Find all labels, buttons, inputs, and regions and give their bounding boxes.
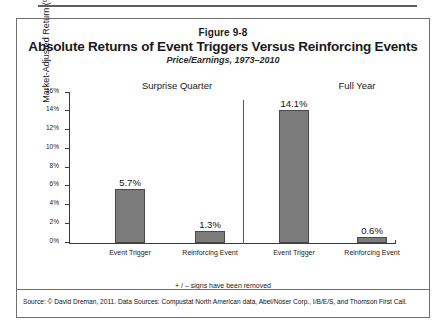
y-tick-label-10: 10% — [46, 143, 59, 150]
panel-header-surprise-quarter: Surprise Quarter — [122, 80, 232, 91]
y-tick-0: 0% — [65, 242, 69, 243]
page-top-rule — [38, 5, 417, 7]
figure-subtitle: Price/Earnings, 1973–2010 — [17, 55, 429, 65]
x-axis-label-fullyear-event-trigger: Event Trigger — [273, 249, 315, 256]
figure-container: Figure 9-8 Absolute Returns of Event Tri… — [16, 18, 430, 318]
y-tick-label-2: 2% — [50, 218, 59, 225]
bar-surprise-reinforcing-event[interactable]: 1.3% — [195, 231, 225, 243]
y-tick-14: 14% — [65, 110, 69, 111]
y-tick-2: 2% — [65, 223, 69, 224]
x-axis-endcap — [395, 240, 396, 244]
plot-area: 0% 2% 4% 6% 8% 10% 12% 14% 16% 5.7% 1.3%… — [69, 92, 396, 244]
source-divider — [17, 289, 429, 290]
figure-title: Absolute Returns of Event Triggers Versu… — [17, 39, 429, 54]
y-tick-label-12: 12% — [46, 124, 59, 131]
y-tick-12: 12% — [65, 129, 69, 130]
y-axis-title: Market-Adjusted Return (%) — [41, 0, 51, 112]
x-category-anchor-3: Event Trigger — [279, 243, 309, 244]
x-category-anchor-2: Reinforcing Event — [195, 243, 225, 244]
panel-header-full-year: Full Year — [302, 80, 412, 91]
x-axis-label-surprise-event-trigger: Event Trigger — [109, 249, 151, 256]
y-tick-16: 16% — [65, 92, 69, 93]
x-category-anchor-1: Event Trigger — [115, 243, 145, 244]
chart-footnote: + / – signs have been removed — [17, 282, 429, 289]
panel-divider — [243, 100, 244, 244]
bar-value-fullyear-reinforcing-event: 0.6% — [361, 225, 383, 236]
x-category-anchor-4: Reinforcing Event — [357, 243, 387, 244]
bar-value-surprise-event-trigger: 5.7% — [119, 177, 141, 188]
y-tick-label-16: 16% — [46, 87, 59, 94]
y-tick-label-4: 4% — [50, 199, 59, 206]
bar-fullyear-event-trigger[interactable]: 14.1% — [279, 110, 309, 243]
y-tick-label-8: 8% — [50, 162, 59, 169]
figure-number: Figure 9-8 — [17, 27, 429, 38]
source-note: Source: © David Dreman, 2011. Data Sourc… — [23, 298, 425, 305]
y-tick-label-0: 0% — [50, 237, 59, 244]
y-tick-label-14: 14% — [46, 105, 59, 112]
y-tick-10: 10% — [65, 148, 69, 149]
x-axis-label-fullyear-reinforcing-event: Reinforcing Event — [344, 249, 399, 256]
x-axis-label-surprise-reinforcing-event: Reinforcing Event — [182, 249, 237, 256]
y-tick-8: 8% — [65, 167, 69, 168]
bar-value-surprise-reinforcing-event: 1.3% — [199, 219, 221, 230]
y-tick-4: 4% — [65, 204, 69, 205]
y-tick-label-6: 6% — [50, 180, 59, 187]
bar-surprise-event-trigger[interactable]: 5.7% — [115, 189, 145, 243]
bar-value-fullyear-event-trigger: 14.1% — [281, 98, 308, 109]
y-axis-line — [69, 92, 70, 243]
y-tick-6: 6% — [65, 185, 69, 186]
